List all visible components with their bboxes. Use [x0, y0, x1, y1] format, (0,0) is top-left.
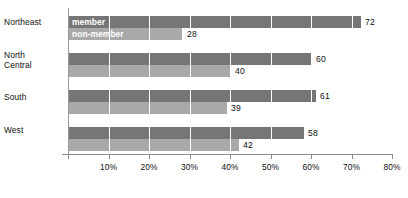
- value-label-northeast-member: 72: [365, 16, 375, 28]
- x-tick-10: [109, 154, 110, 159]
- legend-label-member: member: [72, 16, 105, 28]
- x-tick-0: [68, 154, 69, 159]
- x-tick-20: [149, 154, 150, 159]
- category-label-south: South: [4, 93, 66, 103]
- bar-northeast-member: [69, 16, 361, 28]
- x-tick-label-10: 10%: [89, 162, 129, 172]
- x-axis-line: [62, 154, 393, 155]
- value-label-south-member: 61: [320, 90, 330, 102]
- bar-chart: Northeast North Central South West membe…: [0, 0, 408, 198]
- x-tick-label-80: 80%: [372, 162, 408, 172]
- value-label-north-central-member: 60: [316, 53, 326, 65]
- x-tick-label-70: 70%: [332, 162, 372, 172]
- value-label-west-member: 58: [308, 127, 318, 139]
- x-tick-50: [271, 154, 272, 159]
- value-label-northeast-non-member: 28: [187, 28, 197, 40]
- plot-area: member non-member 72 28 60 40 61 39 58 4…: [68, 8, 392, 154]
- bar-north-central-member: [69, 53, 312, 65]
- gridline-70: [352, 8, 353, 154]
- value-label-north-central-non-member: 40: [235, 65, 245, 77]
- x-tick-label-50: 50%: [251, 162, 291, 172]
- category-label-north-central: North Central: [4, 51, 66, 70]
- x-tick-label-40: 40%: [210, 162, 250, 172]
- bar-south-non-member: [69, 102, 227, 114]
- x-tick-70: [352, 154, 353, 159]
- x-tick-label-30: 30%: [170, 162, 210, 172]
- category-label-northeast: Northeast: [4, 18, 66, 28]
- x-tick-40: [230, 154, 231, 159]
- value-label-south-non-member: 39: [231, 102, 241, 114]
- legend-label-non-member: non-member: [72, 28, 124, 40]
- value-label-west-non-member: 42: [243, 139, 253, 151]
- x-tick-60: [311, 154, 312, 159]
- x-tick-label-20: 20%: [129, 162, 169, 172]
- bar-south-member: [69, 90, 316, 102]
- x-tick-30: [190, 154, 191, 159]
- x-tick-80: [392, 154, 393, 159]
- bar-west-non-member: [69, 139, 239, 151]
- x-tick-label-60: 60%: [291, 162, 331, 172]
- bar-north-central-non-member: [69, 65, 231, 77]
- category-label-west: West: [4, 126, 66, 136]
- bar-west-member: [69, 127, 304, 139]
